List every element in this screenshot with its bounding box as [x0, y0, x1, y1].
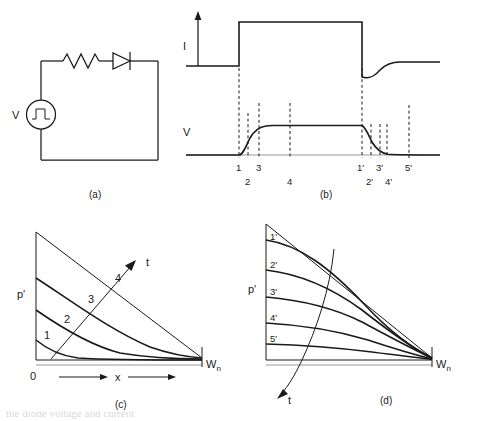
- panel-b-waveforms: I V 1 3 1' 3' 5' 2 4 2' 4' (b): [183, 11, 440, 200]
- panel-c-caption: (c): [115, 399, 127, 410]
- panel-d-curve-label-4p: 4': [270, 312, 277, 323]
- panel-c-time-arrowhead: [125, 260, 136, 271]
- panel-d-curve-1p: [266, 240, 432, 358]
- panel-d-curve-4p: [266, 323, 432, 359]
- tick-label-1: 1: [236, 162, 241, 173]
- current-axis-arrowhead: [195, 11, 202, 20]
- panel-d-distribution: p' Wn t 1' 2' 3' 4' 5' (d): [248, 224, 451, 406]
- panel-d-time-arrow-line: [282, 249, 334, 393]
- panel-c-x-arrowhead-left: [100, 374, 108, 380]
- current-waveform: [186, 22, 440, 78]
- panel-d-time-label: t: [288, 394, 291, 406]
- tick-label-2: 2: [245, 176, 250, 187]
- panel-d-width-subscript: n: [446, 364, 450, 373]
- panel-c-width-label: Wn: [206, 358, 221, 373]
- tick-label-4-prime: 4': [385, 176, 392, 187]
- panel-a-caption: (a): [89, 189, 101, 200]
- panel-d-curve-label-3p: 3': [270, 286, 277, 297]
- page-bottom-text-clipped: the diode voltage and current: [0, 411, 477, 421]
- panel-c-curve-label-1: 1: [44, 329, 50, 341]
- panel-d-width-label: Wn: [436, 358, 451, 373]
- tick-label-3: 3: [256, 162, 261, 173]
- figure-canvas: V (a) I V 1 3 1' 3' 5' 2 4 2': [0, 0, 477, 421]
- panel-a-circuit: V (a): [12, 52, 158, 200]
- voltage-axis-label: V: [183, 126, 191, 138]
- pulse-waveform-icon: [32, 109, 50, 119]
- panel-c-curve-2: [36, 310, 202, 359]
- pulse-source-circle: [27, 100, 56, 129]
- diode-icon-triangle: [113, 53, 130, 69]
- panel-d-curve-label-1p: 1': [270, 231, 277, 242]
- panel-d-curve-label-5p: 5': [270, 333, 277, 344]
- tick-label-5-prime: 5': [405, 162, 412, 173]
- resistor-icon: [63, 54, 99, 68]
- figure-root: V (a) I V 1 3 1' 3' 5' 2 4 2': [0, 0, 477, 421]
- panel-c-curve-label-3: 3: [88, 293, 94, 305]
- current-axis-label: I: [183, 40, 186, 52]
- panel-c-time-label: t: [146, 256, 149, 268]
- tick-label-3-prime: 3': [376, 162, 383, 173]
- voltage-waveform: [186, 126, 440, 156]
- panel-d-y-label: p': [248, 283, 256, 295]
- panel-c-curve-1: [36, 340, 202, 360]
- panel-c-x-arrowhead-right: [168, 374, 176, 380]
- source-label: V: [12, 109, 20, 121]
- panel-c-width-subscript: n: [216, 364, 220, 373]
- tick-label-4: 4: [287, 176, 292, 187]
- panel-c-x-label: x: [115, 371, 121, 383]
- tick-label-1-prime: 1': [357, 162, 364, 173]
- panel-d-time-arrowhead: [277, 389, 288, 399]
- panel-c-origin-label: 0: [30, 370, 36, 382]
- tick-label-2-prime: 2': [366, 176, 373, 187]
- panel-d-reference-line: [266, 224, 432, 358]
- panel-c-distribution: p' 0 Wn t x 1 2 3 4 (c): [17, 232, 221, 410]
- panel-c-y-label: p': [17, 288, 25, 300]
- bottom-caption-text: the diode voltage and current: [6, 411, 134, 419]
- panel-c-curve-3: [36, 278, 202, 358]
- panel-b-caption: (b): [320, 189, 332, 200]
- panel-c-curve-label-2: 2: [64, 313, 70, 325]
- panel-d-curve-label-2p: 2': [270, 259, 277, 270]
- panel-d-caption: (d): [380, 395, 392, 406]
- panel-c-curve-label-4: 4: [115, 272, 121, 284]
